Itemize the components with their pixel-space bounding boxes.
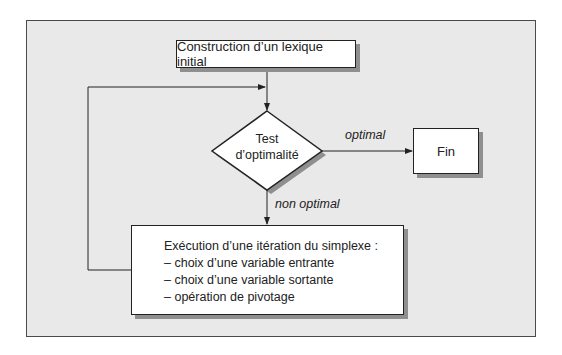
test-node-label: Test d’optimalité: [212, 131, 322, 163]
start-label: Construction d’un lexique initial: [177, 39, 355, 69]
optimal-label: optimal: [345, 128, 385, 142]
iteration-item: – choix d’une variable entrante: [164, 255, 403, 272]
test-label-line1: Test: [212, 131, 322, 147]
end-node: Fin: [413, 128, 479, 174]
iteration-title: Exécution d’une itération du simplexe :: [164, 238, 403, 255]
start-node: Construction d’un lexique initial: [176, 40, 356, 68]
non-optimal-label: non optimal: [275, 197, 340, 211]
iteration-item: – opération de pivotage: [164, 289, 403, 306]
iteration-item: – choix d’une variable sortante: [164, 272, 403, 289]
test-label-line2: d’optimalité: [212, 147, 322, 163]
iteration-node: Exécution d’une itération du simplexe : …: [131, 225, 404, 315]
end-label: Fin: [437, 144, 455, 159]
